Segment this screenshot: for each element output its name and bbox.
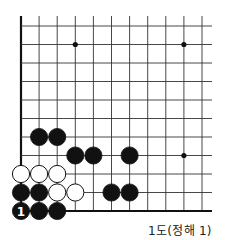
black-stone	[121, 147, 138, 164]
white-stone	[30, 165, 47, 182]
star-point-icon	[181, 42, 186, 47]
black-stone	[67, 147, 84, 164]
black-stone	[49, 128, 66, 145]
star-point-icon	[73, 42, 78, 47]
black-stone	[121, 184, 138, 201]
black-stone	[103, 184, 120, 201]
black-stone	[49, 202, 66, 219]
go-board: 1	[0, 0, 225, 220]
stone-move-number: 1	[17, 205, 25, 219]
white-stone	[12, 165, 29, 182]
star-point-icon	[181, 153, 186, 158]
black-stone	[30, 184, 47, 201]
white-stone	[67, 184, 84, 201]
diagram-caption: 1도(정해 1)	[148, 221, 212, 238]
black-stone	[85, 147, 102, 164]
black-stone: 1	[12, 202, 29, 219]
black-stone	[30, 128, 47, 145]
black-stone	[30, 202, 47, 219]
white-stone	[49, 165, 66, 182]
black-stone	[12, 184, 29, 201]
white-stone	[49, 184, 66, 201]
